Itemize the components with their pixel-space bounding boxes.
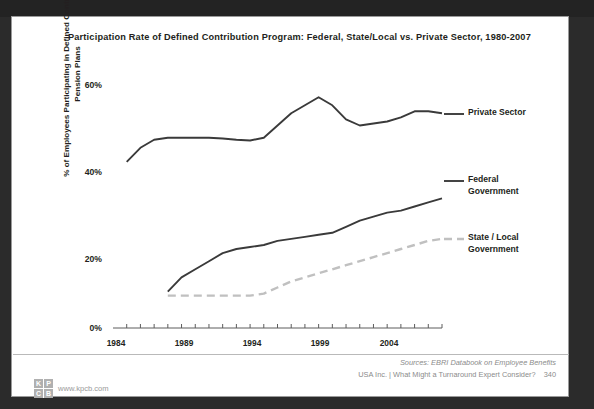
source-note: Sources: EBRI Databook on Employee Benef…	[400, 358, 556, 367]
x-tick-label-2004: 2004	[369, 338, 409, 348]
series-line-federal-government	[168, 198, 442, 291]
logo-cell-c: C	[34, 389, 43, 398]
footer-note: USA Inc. | What Might a Turnaround Exper…	[358, 370, 556, 379]
series-line-private-sector	[127, 97, 442, 162]
x-tick-label-1999: 1999	[300, 338, 340, 348]
annotation-leader-lines	[444, 114, 464, 239]
series-label-federal-government: Federal Government	[468, 174, 519, 197]
x-axis-ticks	[127, 324, 442, 328]
kpcb-logo-icon: K P C B	[34, 379, 53, 398]
logo-cell-b: B	[44, 389, 53, 398]
series-label-private-sector: Private Sector	[468, 107, 526, 119]
series-label-state-local-government: State / Local Government	[468, 232, 519, 255]
kpcb-website-link[interactable]: www.kpcb.com	[58, 384, 109, 393]
logo-cell-p: P	[44, 379, 53, 388]
x-tick-label-1994: 1994	[232, 338, 272, 348]
y-axis-title-wrap: % of Employees Participating in Defined …	[59, 0, 85, 194]
y-tick-label-40: 40%	[68, 167, 102, 177]
x-tick-label-1984: 1984	[96, 338, 136, 348]
series-line-state-local-government	[168, 239, 442, 296]
window-top-band	[0, 0, 594, 17]
footer-deck-title: USA Inc. | What Might a Turnaround Exper…	[358, 370, 535, 379]
slide-page: Participation Rate of Defined Contributi…	[11, 16, 569, 397]
y-tick-label-60: 60%	[68, 80, 102, 90]
logo-cell-k: K	[34, 379, 43, 388]
y-tick-label-0: 0%	[68, 323, 102, 333]
series-paths	[127, 97, 442, 295]
footer-divider	[13, 354, 569, 355]
y-tick-label-20: 20%	[68, 254, 102, 264]
kpcb-logo-block[interactable]: K P C B www.kpcb.com	[34, 379, 109, 398]
y-axis-title: % of Employees Participating in Defined …	[61, 0, 83, 190]
slide-background: Participation Rate of Defined Contributi…	[0, 0, 594, 409]
page-number: 340	[544, 370, 556, 379]
x-tick-label-1989: 1989	[164, 338, 204, 348]
